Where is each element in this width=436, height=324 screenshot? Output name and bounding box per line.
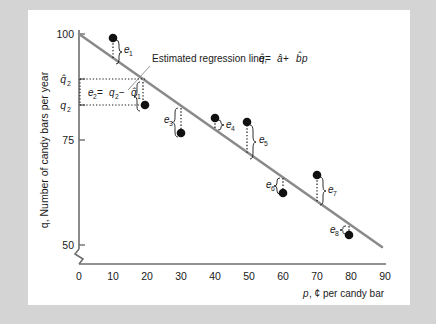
residual-label-e5-sub: 5: [264, 140, 268, 147]
residual-label-e4-sub: 4: [231, 125, 235, 132]
residual-brace-e7: [320, 177, 326, 205]
x-tick-label-10: 10: [107, 270, 119, 282]
x-tick-label-50: 50: [243, 270, 255, 282]
y-label-qhat2: q̂ 2: [60, 73, 71, 87]
estimated-regression-line: [79, 34, 382, 247]
scatter-plot-with-regression-line: 100 75 50 q̂ 2 q 2 0 10 20 30 40 50 60 7…: [0, 0, 436, 324]
svg-text:q̂: q̂: [60, 73, 66, 85]
residual-label-e1-sub: 1: [129, 50, 133, 57]
regression-annotation-plus: +: [283, 53, 289, 64]
residual-label-e3-sub: 3: [169, 120, 173, 127]
x-axis-title-rest: , ¢ per candy bar: [309, 288, 385, 299]
x-tick-label-90: 90: [379, 270, 391, 282]
residual-group-e7: e 7: [317, 177, 337, 205]
residual-label-e7-sub: 7: [333, 190, 337, 197]
y-axis-break-icon: [75, 249, 83, 264]
e2-formula: e 2 = q 2 − q̂ 1: [88, 87, 141, 100]
y-tick-marks: [79, 34, 85, 245]
data-point-6[interactable]: [279, 189, 288, 198]
x-tick-label-40: 40: [209, 270, 221, 282]
svg-text:2: 2: [67, 106, 71, 113]
data-point-1[interactable]: [109, 34, 118, 43]
e2-formula-equals: =: [97, 87, 103, 98]
x-tick-label-70: 70: [311, 270, 323, 282]
y-tick-label-75: 75: [62, 134, 74, 146]
regression-line-annotation: Estimated regression line, q̂ = â + b̂ …: [128, 51, 308, 90]
y-axis: [75, 30, 83, 264]
svg-text:2: 2: [67, 80, 71, 87]
x-axis-title-italic: p: [302, 288, 309, 299]
x-tick-label-0: 0: [76, 270, 82, 282]
regression-annotation-text: Estimated regression line,: [152, 53, 267, 64]
data-point-5[interactable]: [243, 118, 252, 127]
e2-formula-minus: −: [119, 87, 125, 98]
x-axis-title: p , ¢ per candy bar: [302, 288, 385, 299]
y-axis-title: q, Number of candy bars per year: [38, 71, 50, 228]
regression-annotation-eq: =: [265, 53, 271, 64]
data-point-3[interactable]: [177, 129, 186, 138]
data-point-8[interactable]: [345, 231, 354, 240]
residual-brace-e4: [218, 120, 224, 130]
residual-label-e6-sub: 6: [271, 185, 275, 192]
regression-annotation-p: p: [301, 53, 308, 64]
y-label-q2: q 2: [60, 99, 71, 113]
svg-text:q: q: [60, 99, 66, 111]
x-tick-label-60: 60: [277, 270, 289, 282]
e2-formula-qhat-sub: 1: [137, 93, 141, 100]
x-tick-label-20: 20: [141, 270, 153, 282]
data-points: [109, 34, 354, 240]
x-tick-label-30: 30: [175, 270, 187, 282]
y-tick-label-50: 50: [62, 239, 74, 251]
residual-label-e8-sub: 8: [335, 230, 339, 237]
figure-root: 100 75 50 q̂ 2 q 2 0 10 20 30 40 50 60 7…: [0, 0, 436, 324]
data-point-4[interactable]: [211, 114, 220, 123]
data-point-7[interactable]: [313, 171, 322, 180]
residual-brace-e8: [340, 226, 346, 234]
x-tick-label-80: 80: [345, 270, 357, 282]
y-tick-label-100: 100: [56, 28, 74, 40]
data-point-2[interactable]: [141, 101, 150, 110]
